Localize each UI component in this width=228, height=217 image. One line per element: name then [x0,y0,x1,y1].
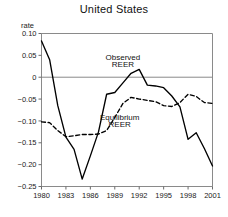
x-tick-label: 1983 [58,191,75,200]
x-tick-label: 2001 [204,191,221,200]
x-tick-label: 1998 [180,191,197,200]
y-tick-label: 0.10 [22,29,37,38]
series-annotations: ObservedREEREquilibriumREER [100,53,140,128]
y-tick-label: −0.05 [18,95,37,104]
x-axis-ticks: 19801983198619891992199519982001 [33,187,221,201]
x-tick-label: 1980 [33,191,50,200]
x-tick-label: 1992 [131,191,148,200]
y-axis-ticks: 0.100.050−0.05−0.10−0.15−0.20−0.25 [18,29,42,191]
y-tick-label: −0.25 [18,182,37,191]
chart-figure: United States rate 0.100.050−0.05−0.10−0… [0,0,228,217]
y-tick-label: −0.15 [18,138,37,147]
x-tick-label: 1986 [82,191,99,200]
series-annotation-label: REER [112,60,134,69]
y-tick-label: 0.05 [22,51,37,60]
x-tick-label: 1989 [106,191,123,200]
y-tick-label: −0.10 [18,117,37,126]
x-tick-label: 1995 [155,191,172,200]
y-tick-label: 0 [32,73,36,82]
series-annotation-label: REER [109,120,131,129]
y-tick-label: −0.20 [18,160,37,169]
line-chart-plot: 0.100.050−0.05−0.10−0.15−0.20−0.25 19801… [0,0,228,217]
